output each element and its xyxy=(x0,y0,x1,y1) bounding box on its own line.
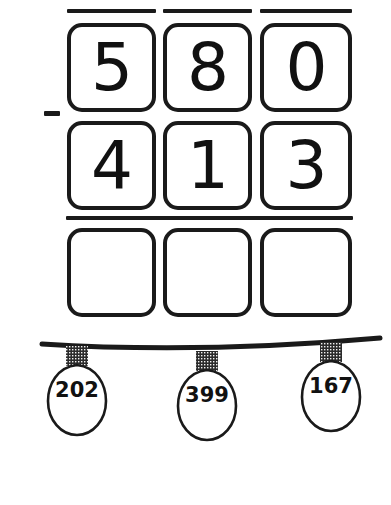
top-rule-column-2 xyxy=(163,9,252,13)
answer-rule xyxy=(66,216,353,220)
minuend-digit-box-tens: 8 xyxy=(163,23,252,112)
bulb-cap-3 xyxy=(320,342,342,362)
bulb-choice-3[interactable]: 167 xyxy=(302,342,360,431)
minuend-digit-tens: 8 xyxy=(167,35,248,101)
christmas-lights-garland: 202 399 167 xyxy=(0,325,391,465)
minuend-digit-box-hundreds: 5 xyxy=(67,23,156,112)
answer-digit-box-hundreds[interactable] xyxy=(67,228,156,317)
subtrahend-digit-box-tens: 1 xyxy=(163,121,252,210)
top-rule-column-3 xyxy=(260,9,352,13)
minuend-digit-hundreds: 5 xyxy=(71,35,152,101)
bulb-cap-1 xyxy=(66,346,88,366)
minuend-digit-ones: 0 xyxy=(264,35,348,101)
subtrahend-digit-tens: 1 xyxy=(167,133,248,199)
minuend-digit-box-ones: 0 xyxy=(260,23,352,112)
bulb-label-1: 202 xyxy=(55,378,99,402)
bulb-label-3: 167 xyxy=(309,374,353,398)
answer-digit-box-tens[interactable] xyxy=(163,228,252,317)
bulb-cap-2 xyxy=(196,351,218,371)
subtrahend-digit-ones: 3 xyxy=(264,133,348,199)
bulb-label-2: 399 xyxy=(185,383,229,407)
minus-operator-icon xyxy=(44,111,60,116)
bulb-choice-2[interactable]: 399 xyxy=(178,351,236,440)
subtrahend-digit-box-hundreds: 4 xyxy=(67,121,156,210)
bulb-choice-1[interactable]: 202 xyxy=(48,346,106,435)
subtraction-worksheet: 5 8 0 4 1 3 xyxy=(0,0,391,505)
top-rule-column-1 xyxy=(67,9,156,13)
subtrahend-digit-hundreds: 4 xyxy=(71,133,152,199)
answer-digit-box-ones[interactable] xyxy=(260,228,352,317)
subtrahend-digit-box-ones: 3 xyxy=(260,121,352,210)
